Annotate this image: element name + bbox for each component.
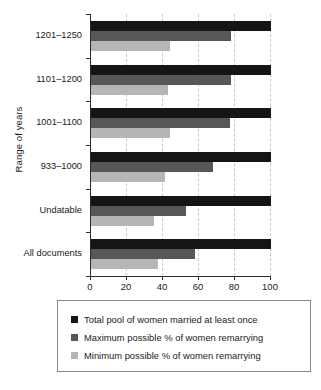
legend-swatch-icon [71, 352, 78, 359]
gridline [162, 14, 163, 276]
bar [91, 216, 154, 226]
x-axis-tick-label: 80 [214, 281, 254, 292]
x-axis-tick-mark [198, 276, 199, 280]
bar [91, 85, 168, 95]
bar [91, 249, 195, 259]
legend-label: Maximum possible % of women remarrying [84, 332, 263, 343]
category-label: 1101–1200 [0, 74, 82, 84]
legend-item: Total pool of women married at least onc… [71, 311, 258, 327]
x-axis-tick-mark [270, 276, 271, 280]
bar [91, 259, 158, 269]
x-axis-tick-label: 60 [178, 281, 218, 292]
gridline [198, 14, 199, 276]
y-axis-title: Range of years [13, 75, 24, 205]
x-axis-tick-label: 40 [142, 281, 182, 292]
legend-label: Minimum possible % of women remarrying [84, 350, 261, 361]
y-axis-tick-mark [86, 276, 90, 277]
legend-swatch-icon [71, 316, 78, 323]
bar [91, 21, 271, 31]
y-axis-tick-mark [86, 145, 90, 146]
category-label: 1001–1100 [0, 117, 82, 127]
legend-item: Minimum possible % of women remarrying [71, 347, 261, 363]
x-axis-line [90, 276, 271, 277]
x-axis-tick-mark [90, 276, 91, 280]
x-axis-tick-mark [162, 276, 163, 280]
y-axis-tick-mark [86, 101, 90, 102]
bar [91, 196, 271, 206]
plot-area: 020406080100 1201–12501101–12001001–1100… [90, 14, 270, 276]
legend-swatch-icon [71, 334, 78, 341]
bar [91, 162, 213, 172]
x-axis-tick-label: 0 [70, 281, 110, 292]
gridline [234, 14, 235, 276]
x-axis-tick-mark [234, 276, 235, 280]
chart-legend: Total pool of women married at least onc… [57, 300, 311, 372]
gridline [270, 14, 271, 276]
bar [91, 31, 231, 41]
y-axis-tick-mark [86, 189, 90, 190]
y-axis-tick-mark [86, 58, 90, 59]
x-axis-tick-label: 100 [250, 281, 290, 292]
legend-item: Maximum possible % of women remarrying [71, 329, 263, 345]
category-label: 1201–1250 [0, 30, 82, 40]
y-axis-tick-mark [86, 232, 90, 233]
bar [91, 65, 271, 75]
x-axis-tick-mark [126, 276, 127, 280]
bar [91, 108, 271, 118]
bar-chart-figure: Range of years 020406080100 1201–1250110… [0, 0, 321, 390]
bar [91, 239, 271, 249]
x-axis-tick-label: 20 [106, 281, 146, 292]
legend-label: Total pool of women married at least onc… [84, 314, 258, 325]
bar [91, 152, 271, 162]
bar [91, 128, 170, 138]
bar [91, 118, 230, 128]
bar [91, 206, 186, 216]
category-label: 933–1000 [0, 161, 82, 171]
gridline [126, 14, 127, 276]
category-label: Undatable [0, 205, 82, 215]
bar [91, 75, 231, 85]
category-label: All documents [0, 248, 82, 258]
y-axis-line [90, 14, 91, 276]
y-axis-tick-mark [86, 14, 90, 15]
bar [91, 172, 165, 182]
bar [91, 41, 170, 51]
